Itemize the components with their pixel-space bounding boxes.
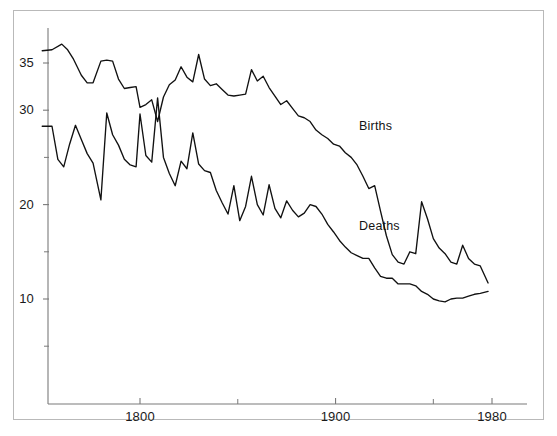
x-tick-label-1800: 1800: [110, 409, 170, 424]
chart-axes: [48, 28, 527, 404]
series-label-births: Births: [359, 119, 392, 133]
y-tick-label-30: 30: [4, 102, 34, 117]
x-tick-label-1980: 1980: [462, 409, 522, 424]
axis-ticks: [43, 63, 492, 404]
series-line-births: [42, 44, 488, 283]
line-chart: [0, 0, 557, 436]
x-tick-label-1900: 1900: [306, 409, 366, 424]
series-label-deaths: Deaths: [359, 219, 400, 233]
series-line-deaths: [42, 98, 488, 302]
data-lines: [42, 44, 488, 302]
y-tick-label-10: 10: [4, 291, 34, 306]
y-tick-label-20: 20: [4, 197, 34, 212]
y-tick-label-35: 35: [4, 55, 34, 70]
